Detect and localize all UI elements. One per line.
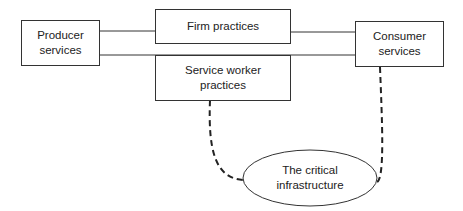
node-critical-infrastructure: The critical infrastructure <box>243 163 377 193</box>
consumer-label-2: services <box>373 44 426 59</box>
worker-label-1: Service worker <box>185 63 261 78</box>
node-consumer-services: Consumer services <box>355 21 444 67</box>
producer-label-2: services <box>37 43 84 58</box>
producer-label-1: Producer <box>37 28 84 43</box>
edge-worker-infrastructure <box>210 100 243 180</box>
diagram-canvas: Producer services Firm practices Service… <box>0 0 463 211</box>
consumer-label-1: Consumer <box>373 29 426 44</box>
infrastructure-label-1: The critical <box>243 163 377 178</box>
infrastructure-label-2: infrastructure <box>243 178 377 193</box>
node-service-worker-practices: Service worker practices <box>155 55 291 101</box>
node-producer-services: Producer services <box>21 20 100 66</box>
edge-consumer-infrastructure <box>377 67 382 182</box>
firm-label: Firm practices <box>187 19 259 34</box>
node-firm-practices: Firm practices <box>155 9 291 44</box>
worker-label-2: practices <box>185 78 261 93</box>
